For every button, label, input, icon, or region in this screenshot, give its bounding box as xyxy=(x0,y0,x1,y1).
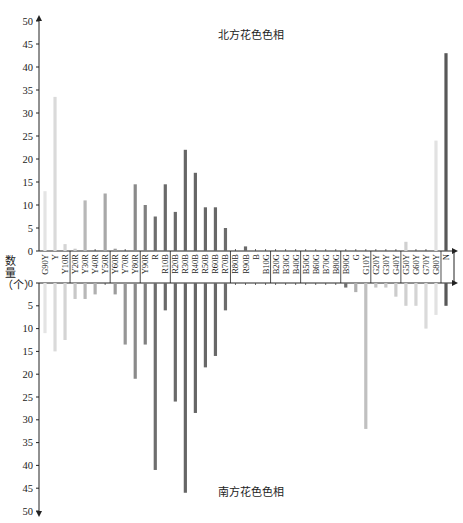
x-category-label: Y50R xyxy=(100,254,110,275)
y-tick-label-bottom: 45 xyxy=(23,483,34,494)
bar-south xyxy=(73,283,76,299)
x-category-label: Y xyxy=(50,254,60,260)
bar-south xyxy=(354,283,357,292)
y-tick-label-bottom: 5 xyxy=(28,300,33,311)
x-category-label: G80Y xyxy=(431,254,441,275)
bar-south xyxy=(144,283,147,345)
x-category-label: B80G xyxy=(331,254,341,274)
x-category-label: G40Y xyxy=(391,254,401,275)
x-category-label: R50B xyxy=(200,254,210,274)
bar-north xyxy=(53,97,56,251)
bar-north xyxy=(204,207,207,251)
x-category-label: R70B xyxy=(220,254,230,274)
y-tick-label-top: 50 xyxy=(23,16,34,27)
bar-north xyxy=(63,244,66,251)
x-category-label: B40G xyxy=(291,254,301,274)
x-category-label: B60G xyxy=(311,254,321,274)
bar-north xyxy=(224,228,227,251)
y-tick-label-top: 40 xyxy=(23,62,34,73)
bar-south xyxy=(174,283,177,402)
y-tick-label-bottom: 30 xyxy=(23,414,34,425)
y-tick-label-top: 35 xyxy=(23,85,34,96)
bar-north xyxy=(114,249,117,251)
x-category-label: R90B xyxy=(241,254,251,274)
diverging-bar-chart: 0055101015152020252530303535404045455050… xyxy=(0,0,463,523)
bar-north xyxy=(184,150,187,251)
bar-south xyxy=(53,283,56,351)
y-tick-label-bottom: 35 xyxy=(23,437,34,448)
y-tick-label-bottom: 10 xyxy=(23,323,34,334)
x-category-label: Y80R xyxy=(130,254,140,275)
bar-north xyxy=(43,191,46,251)
y-tick-label-top: 45 xyxy=(23,39,34,50)
x-category-label: R xyxy=(150,254,160,260)
y-tick-label-bottom: 40 xyxy=(23,460,34,471)
x-category-label: N xyxy=(441,254,451,260)
bar-south xyxy=(364,283,367,429)
bar-south xyxy=(63,283,66,340)
bar-south xyxy=(194,283,197,413)
x-category-label: R20B xyxy=(170,254,180,274)
bar-south xyxy=(84,283,87,299)
x-category-label: G60Y xyxy=(411,254,421,275)
x-category-label: G50Y xyxy=(401,254,411,275)
bar-north xyxy=(84,200,87,251)
x-category-label: B20G xyxy=(271,254,281,274)
x-category-label: G70Y xyxy=(421,254,431,275)
bar-north xyxy=(194,173,197,251)
y-axis-top-arrow-icon xyxy=(36,15,42,21)
bar-south xyxy=(124,283,127,345)
bar-south xyxy=(424,283,427,329)
x-category-label: G10Y xyxy=(361,254,371,275)
x-category-label: G xyxy=(351,254,361,260)
band-top-arrow-icon xyxy=(452,248,458,254)
bar-south xyxy=(94,283,97,294)
x-category-label: B30G xyxy=(281,254,291,274)
bar-south xyxy=(374,283,377,288)
bar-south xyxy=(444,283,447,306)
band-bottom-arrow-icon xyxy=(452,280,458,286)
y-tick-label-bottom: 15 xyxy=(23,346,34,357)
bar-north xyxy=(174,212,177,251)
x-category-label: Y20R xyxy=(70,254,80,275)
bar-north xyxy=(144,205,147,251)
x-category-label: B90G xyxy=(341,254,351,274)
chart-title-south: 南方花色色相 xyxy=(218,483,284,499)
bar-south xyxy=(224,283,227,310)
x-category-label: G90Y xyxy=(40,254,50,275)
x-category-label: Y60R xyxy=(110,254,120,275)
bar-south xyxy=(344,283,347,288)
bar-north xyxy=(244,246,247,251)
x-category-label: R80B xyxy=(230,254,240,274)
x-category-label: G30Y xyxy=(381,254,391,275)
bar-south xyxy=(154,283,157,470)
y-tick-label-top: 5 xyxy=(28,223,33,234)
bar-north xyxy=(214,207,217,251)
x-category-label: Y10R xyxy=(60,254,70,275)
x-category-label: R60B xyxy=(210,254,220,274)
bar-north xyxy=(444,53,447,251)
x-category-label: R10B xyxy=(160,254,170,274)
x-category-label: B10G xyxy=(261,254,271,274)
bar-south xyxy=(214,283,217,356)
x-category-label: Y70R xyxy=(120,254,130,275)
y-tick-label-top: 25 xyxy=(23,131,34,142)
bar-south xyxy=(43,283,46,333)
bar-north xyxy=(73,249,76,251)
x-category-label: Y30R xyxy=(80,254,90,275)
bar-south xyxy=(434,283,437,315)
bar-south xyxy=(114,283,117,294)
x-category-label: Y40R xyxy=(90,254,100,275)
bar-north xyxy=(104,194,107,252)
x-category-label: G20Y xyxy=(371,254,381,275)
y-tick-label-top: 15 xyxy=(23,177,34,188)
x-category-label: B70G xyxy=(321,254,331,274)
y-tick-label-bottom: 20 xyxy=(23,369,34,380)
y-tick-label-top: 20 xyxy=(23,154,34,165)
bar-south xyxy=(394,283,397,297)
bar-north xyxy=(164,184,167,251)
x-category-label: R40B xyxy=(190,254,200,274)
bar-south xyxy=(134,283,137,379)
bar-south xyxy=(404,283,407,306)
y-tick-label-top: 30 xyxy=(23,108,34,119)
